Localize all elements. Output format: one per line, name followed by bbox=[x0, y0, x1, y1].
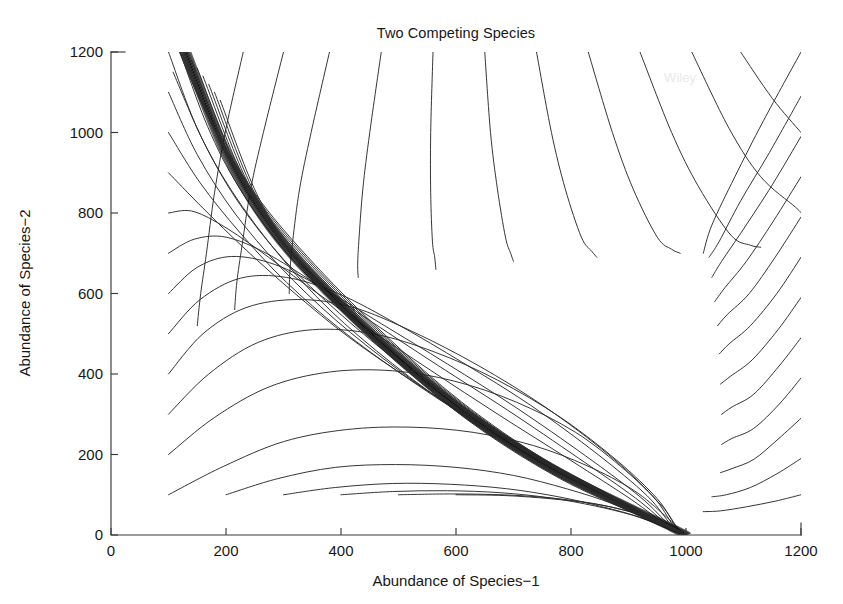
x-tick-label: 200 bbox=[213, 542, 238, 559]
y-axis-title: Abundance of Species−2 bbox=[16, 209, 33, 376]
y-tick-label: 0 bbox=[95, 526, 103, 543]
x-axis-title: Abundance of Species−1 bbox=[372, 572, 539, 589]
x-tick-label: 0 bbox=[107, 542, 115, 559]
x-tick-label: 800 bbox=[558, 542, 583, 559]
x-tick-label: 600 bbox=[443, 542, 468, 559]
y-tick-label: 200 bbox=[78, 446, 103, 463]
chart-title: Two Competing Species bbox=[377, 25, 535, 41]
x-tick-label: 1000 bbox=[669, 542, 702, 559]
y-tick-label: 1200 bbox=[70, 43, 103, 60]
y-tick-label: 800 bbox=[78, 204, 103, 221]
y-tick-label: 400 bbox=[78, 365, 103, 382]
x-tick-label: 400 bbox=[328, 542, 353, 559]
y-tick-label: 1000 bbox=[70, 124, 103, 141]
figure-background bbox=[0, 0, 843, 604]
phase-portrait-chart: Wiley Two Competing Species 020040060080… bbox=[0, 0, 843, 604]
scan-watermark: Wiley bbox=[664, 70, 696, 85]
y-tick-label: 600 bbox=[78, 285, 103, 302]
x-tick-label: 1200 bbox=[784, 542, 817, 559]
figure-container: Wiley Two Competing Species 020040060080… bbox=[0, 0, 843, 604]
